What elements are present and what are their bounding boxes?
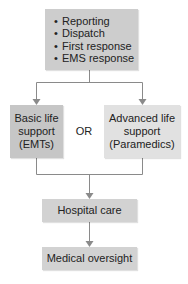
list-item: •Dispatch	[54, 27, 134, 40]
list-item: •Reporting	[54, 15, 134, 28]
label-line: Basic life	[14, 112, 58, 125]
bullet-icon: •	[54, 15, 62, 28]
list-item: •First response	[54, 40, 134, 53]
label-line: support	[109, 125, 175, 138]
hospital-care-label: Hospital care	[57, 204, 121, 217]
bullet-icon: •	[54, 40, 62, 53]
label-line: support	[14, 125, 58, 138]
label-line: Advanced life	[109, 112, 175, 125]
basic-life-support-box: Basic life support (EMTs)	[10, 105, 63, 158]
list-item: •EMS response	[54, 52, 134, 65]
advanced-life-support-box: Advanced life support (Paramedics)	[104, 105, 180, 158]
advanced-life-support-label: Advanced life support (Paramedics)	[109, 112, 175, 151]
bullet-icon: •	[54, 52, 62, 65]
bullet-icon: •	[54, 27, 62, 40]
basic-life-support-label: Basic life support (EMTs)	[14, 112, 58, 151]
medical-oversight-label: Medical oversight	[47, 252, 133, 265]
emergency-activation-box: •Reporting •Dispatch •First response •EM…	[45, 9, 138, 70]
label-line: (EMTs)	[14, 138, 58, 151]
activation-steps-list: •Reporting •Dispatch •First response •EM…	[54, 15, 134, 65]
hospital-care-box: Hospital care	[42, 199, 137, 222]
medical-oversight-box: Medical oversight	[42, 247, 137, 270]
or-label: OR	[73, 125, 95, 137]
label-line: (Paramedics)	[109, 138, 175, 151]
